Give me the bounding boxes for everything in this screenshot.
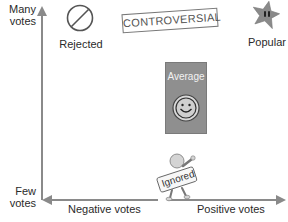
y-axis-top-label-line2: votes [2,15,36,27]
popular-label: Popular [246,36,288,48]
average-label: Average [166,71,206,82]
y-axis-arrowhead [37,6,47,16]
y-axis-bottom-label: Few votes [2,185,36,209]
y-axis-bottom-label-line1: Few [2,185,36,197]
x-axis-left-arrowhead [42,195,52,205]
y-axis-top-label-line1: Many [2,3,36,15]
x-axis-left-label: Negative votes [68,203,141,215]
item-average: Average [165,62,207,134]
y-axis-bottom-label-line2: votes [2,197,36,209]
item-popular: Popular [244,0,288,50]
prohibited-circle-icon [66,4,96,34]
item-ignored: Ignored [150,152,210,212]
item-rejected: Rejected [60,4,102,52]
x-axis-right-arrowhead [276,195,286,205]
rejected-label: Rejected [56,38,106,50]
y-axis-top-label: Many votes [2,3,36,27]
star-icon [250,0,280,30]
smiley-icon [171,93,201,123]
